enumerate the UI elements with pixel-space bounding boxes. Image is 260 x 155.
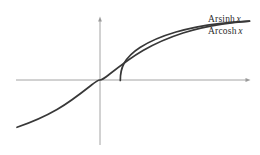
arsinh-curve <box>17 21 250 127</box>
hyperbolic-function-plot: Arsinhx Arcoshx <box>0 0 260 155</box>
arsinh-curve-label: Arsinhx <box>208 15 241 25</box>
arcosh-curve-label: Arcoshx <box>208 27 243 37</box>
arsinh-label-variable: x <box>235 14 241 24</box>
arcosh-label-name: Arcosh <box>208 26 237 36</box>
y-axis-arrowhead-icon <box>98 17 102 22</box>
arcosh-label-variable: x <box>237 26 243 36</box>
arsinh-label-name: Arsinh <box>208 14 235 24</box>
x-axis-arrowhead-icon <box>246 78 251 82</box>
